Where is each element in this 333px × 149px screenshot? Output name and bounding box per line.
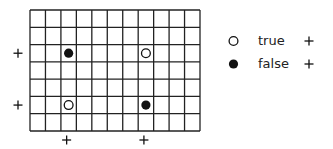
plus-icon bbox=[14, 101, 23, 110]
grid-diagram bbox=[0, 0, 333, 149]
plus-icon bbox=[139, 136, 148, 145]
filled-circle-icon bbox=[141, 100, 150, 109]
legend-open-circle-icon bbox=[229, 37, 238, 46]
open-circle-icon bbox=[64, 101, 73, 110]
legend-label-true: true bbox=[258, 34, 285, 48]
legend-filled-circle-icon bbox=[229, 59, 238, 68]
plus-icon bbox=[305, 60, 314, 69]
open-circle-icon bbox=[142, 49, 151, 58]
legend-label-false: false bbox=[258, 57, 289, 71]
plus-icon bbox=[305, 37, 314, 46]
filled-circle-icon bbox=[64, 49, 73, 58]
grid-lines bbox=[30, 10, 200, 131]
plus-icon bbox=[14, 49, 23, 58]
plus-icon bbox=[62, 136, 71, 145]
